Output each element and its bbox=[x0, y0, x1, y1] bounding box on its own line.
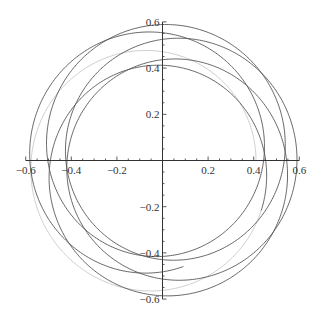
x-tick-label: −0.4 bbox=[61, 164, 81, 176]
axes-layer: −0.6−0.4−0.20.20.40.6 0.60.40.2−0.2−0.4−… bbox=[16, 16, 307, 305]
x-tick-label: −0.6 bbox=[16, 164, 36, 176]
y-tick-label: −0.6 bbox=[140, 293, 160, 305]
x-tick-label: 0.4 bbox=[247, 164, 261, 176]
orbit-plot: −0.6−0.4−0.20.20.40.6 0.60.40.2−0.2−0.4−… bbox=[0, 0, 323, 315]
y-tick-label: 0.6 bbox=[146, 16, 160, 28]
y-tick-label: −0.2 bbox=[140, 201, 160, 213]
y-tick-label: 0.2 bbox=[146, 108, 160, 120]
x-tick-label: 0.2 bbox=[201, 164, 215, 176]
y-tick-label: 0.4 bbox=[146, 62, 160, 74]
y-tick-label: −0.4 bbox=[140, 247, 160, 259]
x-tick-label: −0.2 bbox=[107, 164, 127, 176]
x-tick-label: 0.6 bbox=[292, 164, 306, 176]
